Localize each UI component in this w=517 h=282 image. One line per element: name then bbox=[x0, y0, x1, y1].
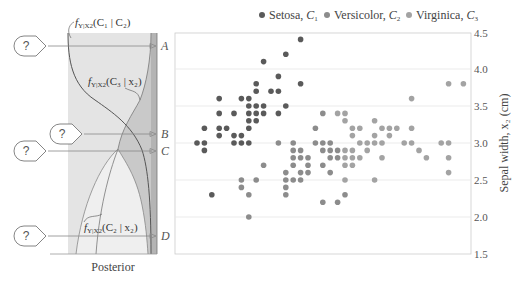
data-point bbox=[239, 140, 245, 146]
data-point bbox=[335, 155, 341, 161]
data-point bbox=[320, 140, 326, 146]
scatter-panel: 4.5 4.0 3.5 3.0 2.5 2.0 1.5 Sepal width,… bbox=[175, 8, 511, 260]
data-point bbox=[416, 148, 422, 154]
data-point bbox=[409, 140, 415, 146]
data-point bbox=[276, 140, 282, 146]
data-point bbox=[342, 118, 348, 124]
data-point bbox=[239, 133, 245, 139]
ytick-1-5: 1.5 bbox=[474, 248, 488, 260]
data-point bbox=[246, 214, 252, 220]
query-letter-d: D bbox=[160, 229, 170, 243]
data-point bbox=[298, 81, 304, 87]
posterior-c3-strip bbox=[151, 33, 157, 254]
legend-marker-setosa bbox=[259, 12, 265, 18]
query-balloon-c: ? bbox=[14, 141, 46, 161]
data-point bbox=[239, 177, 245, 183]
query-balloon-d: ? bbox=[14, 226, 46, 246]
data-point bbox=[268, 88, 274, 94]
data-point bbox=[253, 118, 259, 124]
data-point bbox=[350, 162, 356, 168]
data-point bbox=[350, 125, 356, 131]
data-point bbox=[276, 88, 282, 94]
data-point bbox=[335, 111, 341, 117]
data-point bbox=[283, 103, 289, 109]
posterior-title: Posterior bbox=[91, 260, 134, 274]
svg-text:Virginica, C3: Virginica, C3 bbox=[416, 8, 478, 23]
ytick-2-0: 2.0 bbox=[474, 211, 488, 223]
data-point bbox=[298, 155, 304, 161]
data-point bbox=[446, 155, 452, 161]
posterior-panel: ? ? ? ? A B C D fY|X2(C₁ | C₂) fY|X2(C₃ … bbox=[14, 16, 170, 274]
data-point bbox=[246, 125, 252, 131]
data-point bbox=[335, 148, 341, 154]
data-point bbox=[394, 125, 400, 131]
data-point bbox=[350, 155, 356, 161]
data-point bbox=[202, 125, 208, 131]
data-point bbox=[357, 125, 363, 131]
data-point bbox=[231, 133, 237, 139]
data-point bbox=[305, 170, 311, 176]
data-point bbox=[320, 148, 326, 154]
svg-text:?: ? bbox=[23, 229, 30, 243]
data-point bbox=[283, 177, 289, 183]
svg-text:Setosa, C1: Setosa, C1 bbox=[269, 8, 318, 23]
data-point bbox=[253, 111, 259, 117]
data-point bbox=[246, 140, 252, 146]
data-point bbox=[305, 162, 311, 168]
data-point bbox=[387, 133, 393, 139]
data-point bbox=[202, 140, 208, 146]
data-point bbox=[342, 177, 348, 183]
y-axis-label: Sepal width, x₂ (cm) bbox=[497, 94, 511, 193]
data-point bbox=[216, 133, 222, 139]
legend-marker-versicolor bbox=[324, 12, 330, 18]
data-point bbox=[342, 192, 348, 198]
data-point bbox=[387, 125, 393, 131]
data-point bbox=[305, 155, 311, 161]
data-point bbox=[276, 74, 282, 80]
legend-item-versicolor: Versicolor, C2 bbox=[324, 8, 401, 23]
data-point bbox=[320, 162, 326, 168]
data-point bbox=[320, 111, 326, 117]
data-point bbox=[290, 155, 296, 161]
data-point bbox=[379, 155, 385, 161]
data-point bbox=[298, 177, 304, 183]
data-point bbox=[239, 185, 245, 191]
data-point bbox=[261, 111, 267, 117]
data-point bbox=[231, 111, 237, 117]
data-point bbox=[401, 140, 407, 146]
data-point bbox=[253, 88, 259, 94]
ytick-2-5: 2.5 bbox=[474, 174, 488, 186]
data-point bbox=[342, 155, 348, 161]
data-point bbox=[216, 111, 222, 117]
data-point bbox=[372, 140, 378, 146]
query-balloon-a: ? bbox=[14, 36, 46, 56]
data-point bbox=[335, 199, 341, 205]
data-point bbox=[424, 155, 430, 161]
data-point bbox=[202, 148, 208, 154]
data-point bbox=[372, 133, 378, 139]
data-point bbox=[283, 185, 289, 191]
data-point bbox=[313, 140, 319, 146]
legend-item-virginica: Virginica, C3 bbox=[406, 8, 478, 23]
data-point bbox=[246, 118, 252, 124]
data-point bbox=[216, 125, 222, 131]
data-point bbox=[379, 125, 385, 131]
data-point bbox=[342, 111, 348, 117]
data-point bbox=[246, 192, 252, 198]
query-letter-b: B bbox=[161, 127, 169, 141]
data-point bbox=[253, 81, 259, 87]
ytick-4-5: 4.5 bbox=[474, 27, 488, 39]
data-point bbox=[283, 192, 289, 198]
data-point bbox=[261, 162, 267, 168]
svg-text:?: ? bbox=[23, 39, 30, 53]
data-point bbox=[298, 148, 304, 154]
data-point bbox=[438, 140, 444, 146]
data-point bbox=[253, 103, 259, 109]
data-point bbox=[327, 140, 333, 146]
data-point bbox=[246, 103, 252, 109]
data-point bbox=[290, 148, 296, 154]
data-point bbox=[327, 155, 333, 161]
data-point bbox=[261, 103, 267, 109]
data-point bbox=[224, 125, 230, 131]
data-point bbox=[372, 118, 378, 124]
